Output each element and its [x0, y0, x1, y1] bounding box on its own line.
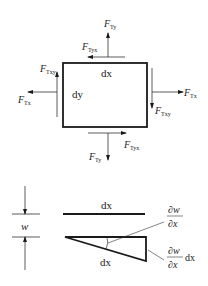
top-dx-label: dx: [101, 199, 113, 211]
force-label-top-horizontal: FTyx: [81, 41, 97, 53]
vertical-leg-label: ∂w ∂x dx: [167, 245, 195, 270]
angle-arc: [106, 237, 108, 249]
svg-text:∂x: ∂x: [168, 218, 178, 229]
force-label-left-horizontal: FTx: [17, 94, 31, 106]
angle-label: ∂w ∂x: [167, 204, 183, 229]
svg-text:∂w: ∂w: [168, 245, 180, 256]
vertical-leader-line: [148, 250, 164, 260]
hypotenuse-dx-label: dx: [100, 256, 112, 268]
svg-text:dx: dx: [185, 252, 195, 263]
svg-text:∂w: ∂w: [168, 204, 180, 215]
force-label-bottom-vertical: FTy: [88, 151, 101, 163]
rect-width-label: dx: [101, 67, 113, 79]
force-label-right-horizontal: FTx: [183, 87, 197, 99]
angle-leader-line: [108, 222, 164, 243]
force-label-bottom-horizontal: FTyx: [123, 139, 139, 151]
plate-element-diagram: dx dy FTy FTyx FTxy FTx FTx FTxy FTyx FT…: [0, 0, 208, 286]
force-label-right-vertical: FTxy: [154, 105, 171, 117]
svg-text:∂x: ∂x: [168, 259, 178, 270]
dimension-label-w: w: [21, 220, 29, 232]
rect-height-label: dy: [72, 88, 84, 100]
force-label-top-vertical: FTy: [103, 18, 116, 30]
force-label-left-vertical: FTxy: [39, 63, 56, 75]
